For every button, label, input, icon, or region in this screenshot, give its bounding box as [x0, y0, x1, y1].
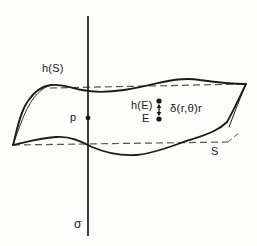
label-h-of-S: h(S): [42, 63, 64, 74]
label-sigma: σ: [74, 218, 82, 230]
delta-arrow-head-up: [157, 104, 162, 108]
h-of-S-surface-curve: [13, 79, 246, 145]
S-base-curve: [13, 122, 227, 155]
right-edge-inner-fold: [229, 84, 246, 127]
point-h-of-E-marker: [156, 98, 161, 103]
label-S: S: [211, 146, 219, 157]
label-delta-r-theta-r: δ(r,θ)r: [170, 103, 202, 115]
label-h-of-E: h(E): [131, 100, 153, 111]
point-p-marker: [86, 116, 91, 121]
lower-reference-chord-dashed-line: [13, 142, 228, 145]
point-E-marker: [156, 116, 161, 121]
left-edge-inner-fold: [13, 85, 51, 145]
lower-chord-right-tail-dashed: [228, 132, 240, 142]
diagram-svg: [0, 0, 257, 246]
label-E: E: [142, 113, 150, 124]
label-p: p: [70, 112, 76, 123]
delta-arrow-head-down: [157, 112, 162, 116]
figure-canvas: h(S) h(E) E δ(r,θ)r p S σ: [0, 0, 257, 246]
